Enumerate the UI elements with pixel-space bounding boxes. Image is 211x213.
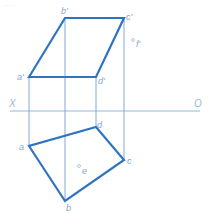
label-a: a [19, 142, 24, 152]
label-a-prime: a' [17, 72, 24, 82]
orthographic-projection-diagram: X O a' b' c' d' f' a b c d e [0, 0, 211, 213]
label-d-prime: d' [98, 76, 105, 86]
label-c: c [127, 156, 132, 166]
label-d: d [97, 120, 103, 130]
point-f-prime-marker [132, 39, 135, 42]
axis-label-x: X [8, 98, 16, 109]
label-e: e [82, 166, 87, 176]
point-e-marker [78, 165, 81, 168]
label-c-prime: c' [126, 12, 133, 22]
label-f-prime: f' [136, 39, 141, 49]
label-b-prime: b' [61, 6, 68, 16]
projection-lines [29, 18, 124, 201]
frontal-view-quadrilateral [29, 18, 124, 77]
axis-label-o: O [194, 98, 202, 109]
horizontal-view-quadrilateral [29, 127, 124, 201]
label-b: b [66, 203, 71, 213]
